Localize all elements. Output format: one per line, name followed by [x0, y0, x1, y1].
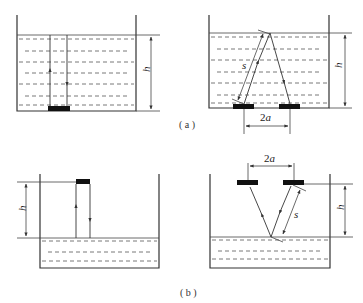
receiver	[279, 104, 300, 109]
transducer	[76, 179, 90, 184]
tank-wall	[40, 174, 159, 268]
caption-b: ( b )	[180, 287, 197, 299]
h-label: h	[140, 66, 152, 72]
2a-label: 2a	[264, 152, 276, 164]
echo-wave-path	[250, 187, 271, 237]
subfigure-a-left: h	[17, 15, 160, 111]
ultrasonic-level-diagram: h s 2a h ( a )	[0, 0, 363, 303]
receiver	[283, 180, 304, 185]
s-label: s	[294, 208, 298, 220]
subfigure-b-right: s 2a h	[210, 152, 353, 268]
subfigure-b-left: h	[16, 174, 159, 268]
transmitter	[237, 180, 258, 185]
emitted-wave-path	[271, 186, 291, 237]
caption-a: ( a )	[179, 119, 195, 131]
subfigure-a-right: s 2a h	[209, 15, 352, 134]
2a-label: 2a	[260, 111, 272, 123]
transducer	[48, 106, 70, 111]
echo-wave-path	[270, 33, 290, 104]
emitted-wave-path	[244, 33, 270, 104]
transmitter	[233, 104, 254, 109]
s-extension-line	[293, 185, 306, 191]
h-label: h	[334, 204, 346, 210]
s-extension-line	[258, 30, 270, 34]
tank-wall	[17, 15, 136, 111]
s-label: s	[242, 59, 246, 71]
tank-wall	[209, 15, 329, 108]
s-extension-line	[271, 237, 283, 242]
h-label: h	[16, 205, 28, 211]
tank-wall	[210, 174, 330, 268]
h-label: h	[332, 62, 344, 68]
